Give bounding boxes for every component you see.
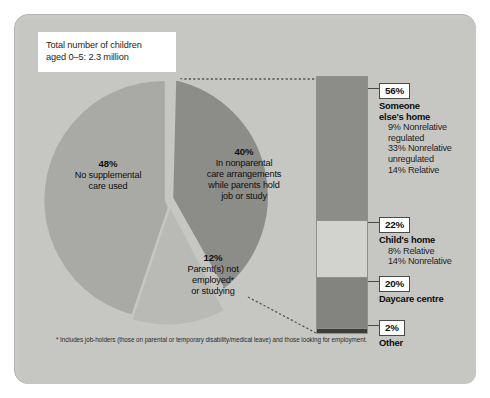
infographic-root: 48% No supplemental care used 40% In non…: [0, 0, 490, 398]
callout-22-heading: Child's home: [379, 235, 479, 246]
bar-segment-someone-elses-home: [317, 77, 367, 220]
callout-56-sub5: 14% Relative: [388, 165, 479, 176]
callout-56-sub4: unregulated: [388, 154, 479, 165]
pie-chart: [44, 78, 294, 328]
bar-segment-other: [317, 328, 367, 333]
title-line-1: Total number of children: [46, 39, 168, 51]
callout-56-heading-line1: Someone: [379, 101, 479, 112]
callout-daycare-centre: 20% Daycare centre: [379, 273, 479, 305]
callout-20-pct: 20%: [379, 276, 410, 292]
callout-56-heading-line2: else's home: [379, 112, 479, 123]
title-line-2: aged 0–5: 2.3 million: [46, 51, 168, 63]
stacked-bar-column: [316, 76, 368, 334]
callout-56-sub3: 33% Nonrelative: [388, 143, 479, 154]
title-box: Total number of children aged 0–5: 2.3 m…: [38, 32, 176, 72]
callout-22-pct: 22%: [379, 217, 410, 233]
callout-56-sub1: 9% Nonrelative: [388, 122, 479, 133]
callout-56-sub2: regulated: [388, 133, 479, 144]
callout-someone-elses-home: 56% Someone else's home 9% Nonrelative r…: [379, 80, 479, 175]
callout-20-heading: Daycare centre: [379, 294, 479, 305]
callout-22-sub1: 8% Relative: [388, 246, 479, 257]
callout-other: 2% Other: [379, 317, 479, 349]
bar-segment-childs-home: [317, 220, 367, 276]
callout-02-pct: 2%: [379, 320, 405, 336]
callout-56-pct: 56%: [379, 83, 410, 99]
footnote: * Includes job-holders (those on parenta…: [56, 336, 386, 344]
callout-childs-home: 22% Child's home 8% Relative 14% Nonrela…: [379, 214, 479, 267]
bar-segment-daycare-centre: [317, 277, 367, 328]
callout-22-sub2: 14% Nonrelative: [388, 256, 479, 267]
callout-02-heading: Other: [379, 338, 479, 349]
